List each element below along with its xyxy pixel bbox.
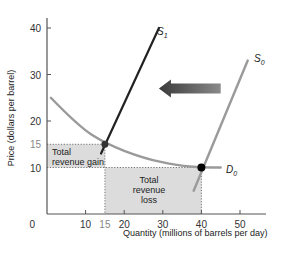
y-axis-title: Price (dollars per barrel) [6,70,16,167]
x-tick-label: 15 [99,219,111,230]
label-s1: S1 [157,26,168,39]
label-s0: S0 [254,53,265,66]
y-tick-label: 30 [30,70,42,81]
x-axis-title: Quantity (millions of barrels per day) [123,228,268,238]
y-tick-label: 10 [30,163,42,174]
label-d0: D0 [226,164,237,177]
left-arrow-icon [159,79,221,97]
equilibrium-point-new [101,141,108,148]
y-tick-label: 15 [30,139,42,150]
equilibrium-point-original [197,164,205,172]
supply-demand-chart: 10152030405010152030400 S1S0D0 Totalreve… [0,0,281,253]
x-tick-label: 10 [80,219,92,230]
curve-s1 [101,28,159,154]
y-tick-label: 20 [30,116,42,127]
shift-arrow [159,79,221,97]
curve-labels: S1S0D0 [157,26,265,177]
y-tick-label: 40 [30,23,42,34]
origin-label: 0 [29,219,35,230]
